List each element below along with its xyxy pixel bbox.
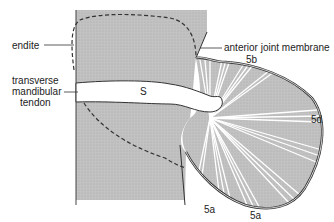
diagram-canvas <box>0 0 334 222</box>
label-tendon-1: transverse <box>12 75 59 86</box>
label-endite: endite <box>12 40 39 51</box>
label-tendon-2: mandibular <box>12 86 61 97</box>
label-5a-1: 5a <box>204 204 215 215</box>
fan-muscle <box>180 50 330 220</box>
label-5d: 5d <box>311 114 322 125</box>
label-tendon-3: tendon <box>20 97 51 108</box>
label-5a-2: 5a <box>250 210 261 221</box>
label-5b: 5b <box>246 54 257 65</box>
label-membrane: anterior joint membrane <box>224 42 330 53</box>
label-s: S <box>140 86 147 97</box>
